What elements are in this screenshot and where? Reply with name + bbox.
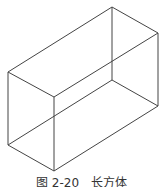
cuboid-edge — [8, 7, 112, 72]
cuboid-edge — [112, 80, 158, 106]
cuboid-edge — [54, 106, 158, 171]
figure-caption: 图 2-20 长方体 — [0, 176, 163, 187]
cuboid-edge — [8, 145, 54, 171]
cuboid-edge — [8, 80, 112, 145]
cuboid-edge — [8, 72, 54, 97]
cuboid-edge — [54, 33, 158, 97]
cuboid-diagram — [0, 0, 163, 187]
cuboid-edge — [112, 7, 158, 33]
